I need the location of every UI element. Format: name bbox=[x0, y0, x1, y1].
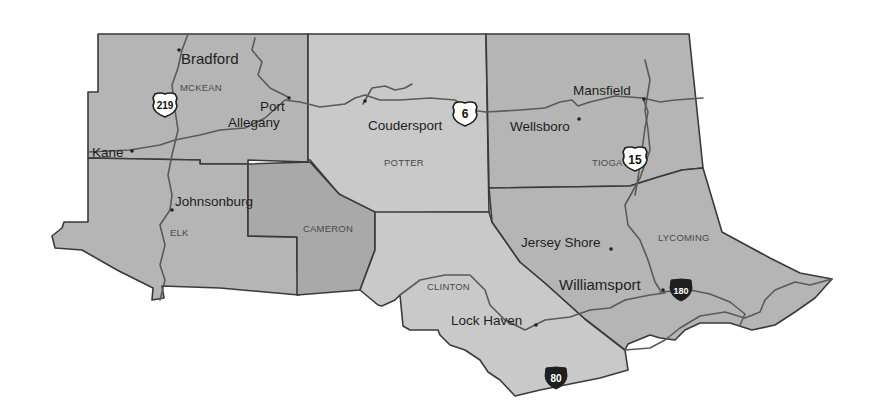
city-dot-wellsboro bbox=[577, 117, 581, 121]
city-label-port: Port bbox=[260, 99, 285, 114]
city-label-mansfield: Mansfield bbox=[573, 83, 631, 98]
city-dot-mansfield bbox=[642, 97, 646, 101]
city-dot-johnsonburg bbox=[170, 208, 174, 212]
city-label-williamsport: Williamsport bbox=[559, 276, 642, 293]
county-label-mckean: MCKEAN bbox=[180, 82, 222, 93]
city-label-allegany: Allegany bbox=[228, 115, 280, 130]
city-label-bradford: Bradford bbox=[181, 50, 239, 67]
svg-text:219: 219 bbox=[157, 100, 174, 111]
county-label-cameron: CAMERON bbox=[303, 223, 353, 234]
county-label-tioga: TIOGA bbox=[592, 157, 623, 168]
city-dot-coudersport bbox=[363, 99, 367, 103]
city-label-johnsonburg: Johnsonburg bbox=[175, 194, 253, 209]
city-dot-port-allegany bbox=[287, 96, 291, 100]
svg-text:180: 180 bbox=[673, 286, 688, 296]
city-dot-lock-haven bbox=[534, 323, 538, 327]
county-map: MCKEAN POTTER TIOGA ELK CAMERON CLINTON … bbox=[0, 0, 880, 416]
svg-text:15: 15 bbox=[628, 153, 642, 167]
city-label-kane: Kane bbox=[92, 145, 124, 160]
city-dot-jersey-shore bbox=[609, 247, 613, 251]
county-label-lycoming: LYCOMING bbox=[658, 232, 710, 243]
svg-text:6: 6 bbox=[462, 107, 469, 121]
county-label-elk: ELK bbox=[170, 227, 189, 238]
city-label-lock-haven: Lock Haven bbox=[451, 313, 522, 328]
city-dot-kane bbox=[130, 149, 134, 153]
svg-text:80: 80 bbox=[550, 373, 562, 384]
city-label-jersey-shore: Jersey Shore bbox=[521, 235, 601, 250]
city-dot-williamsport bbox=[661, 288, 665, 292]
city-label-wellsboro: Wellsboro bbox=[510, 119, 570, 134]
county-label-potter: POTTER bbox=[384, 157, 424, 168]
city-label-coudersport: Coudersport bbox=[368, 118, 443, 133]
county-label-clinton: CLINTON bbox=[427, 281, 470, 292]
